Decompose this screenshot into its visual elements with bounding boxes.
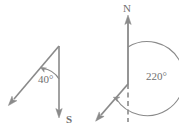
right-angle-label: 220°	[146, 70, 167, 82]
left-angle-label: 40°	[38, 73, 53, 85]
right-bearing-diagram: 220° N	[96, 2, 179, 122]
right-vector-line	[101, 84, 128, 115]
right-direction-label-north: N	[123, 2, 131, 14]
bearing-diagrams-figure: 40° S 220° N	[0, 0, 179, 128]
left-south-reference-line	[56, 46, 62, 118]
left-direction-label-south: S	[66, 113, 72, 125]
right-bearing-vector	[96, 84, 128, 121]
right-north-reference-line	[125, 15, 131, 84]
left-bearing-diagram: 40° S	[8, 46, 72, 125]
